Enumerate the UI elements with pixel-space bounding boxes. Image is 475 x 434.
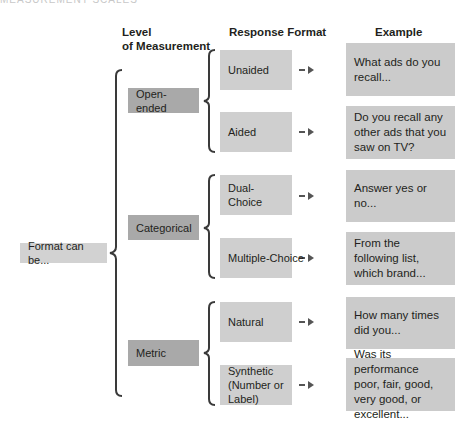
example-box-multiple-choice: From the following list, which brand... xyxy=(346,232,455,285)
response-box-dual-choice: Dual-Choice xyxy=(220,175,292,215)
example-box-unaided: What ads do you recall... xyxy=(346,43,455,96)
root-label: Format can be... xyxy=(28,239,99,267)
response-label: Dual-Choice xyxy=(228,181,284,209)
arrow-unaided-icon xyxy=(299,66,314,74)
example-box-natural: How many times did you... xyxy=(346,297,455,349)
example-text: How many times did you... xyxy=(354,308,447,338)
level-label: Metric xyxy=(136,346,166,360)
response-box-unaided: Unaided xyxy=(220,50,292,90)
response-label: Multiple-Choice xyxy=(228,251,304,265)
example-text: Do you recall any other ads that you saw… xyxy=(354,110,447,155)
example-text: From the following list, which brand... xyxy=(354,236,447,281)
response-label: Natural xyxy=(228,315,263,329)
level-box-open-ended: Open-ended xyxy=(128,88,199,113)
response-box-aided: Aided xyxy=(220,112,292,152)
response-label: Synthetic (Number or Label) xyxy=(228,364,284,406)
response-label: Aided xyxy=(228,125,256,139)
example-box-aided: Do you recall any other ads that you saw… xyxy=(346,106,455,159)
example-box-dual-choice: Answer yes or no... xyxy=(346,170,455,222)
level-box-metric: Metric xyxy=(128,340,199,366)
arrow-natural-icon xyxy=(299,318,314,326)
bracket-open-ended xyxy=(204,50,215,152)
response-box-synthetic: Synthetic (Number or Label) xyxy=(220,365,292,405)
bracket-metric xyxy=(204,302,215,405)
bracket-categorical xyxy=(204,175,215,278)
response-box-multiple-choice: Multiple-Choice xyxy=(220,238,292,278)
arrow-synthetic-icon xyxy=(299,381,314,389)
root-bracket xyxy=(110,70,122,396)
level-label: Open-ended xyxy=(136,87,191,115)
example-text: Was its performance poor, fair, good, ve… xyxy=(354,347,447,422)
response-box-natural: Natural xyxy=(220,302,292,342)
response-label: Unaided xyxy=(228,63,269,77)
example-text: What ads do you recall... xyxy=(354,55,447,85)
example-text: Answer yes or no... xyxy=(354,181,447,211)
arrow-dual-choice-icon xyxy=(299,192,314,200)
level-label: Categorical xyxy=(136,221,192,235)
arrow-aided-icon xyxy=(299,128,314,136)
example-box-synthetic: Was its performance poor, fair, good, ve… xyxy=(346,358,455,411)
level-box-categorical: Categorical xyxy=(128,215,199,240)
root-box: Format can be... xyxy=(20,243,107,263)
